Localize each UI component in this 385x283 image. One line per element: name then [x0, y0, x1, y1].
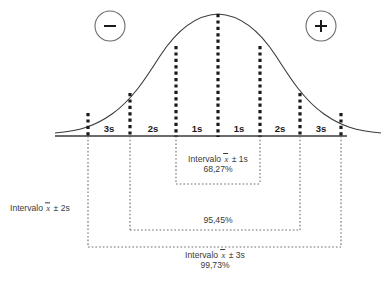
interval-3s-caption: Intervalo x ± 3s 99,73% [185, 251, 245, 271]
interval-2s-xbar: x [45, 203, 51, 213]
sign-markers [95, 11, 336, 41]
bracket-drop-lines [88, 136, 341, 247]
band-label-minus3s: 3s [104, 124, 115, 134]
interval-1s-caption: Intervalo x ± 1s 68,27% [188, 155, 248, 175]
diagram-canvas [0, 0, 385, 283]
band-label-plus1s: 1s [234, 124, 245, 134]
plus-icon [315, 20, 327, 32]
interval-2s-suffix: ± 2s [51, 203, 70, 213]
interval-1s-percent: 68,27% [188, 165, 248, 174]
band-label-plus2s: 2s [275, 124, 286, 134]
interval-3s-suffix: ± 3s [226, 250, 245, 260]
interval-2s-percent: 95,45% [203, 216, 232, 225]
interval-1s-prefix: Intervalo [188, 154, 223, 164]
band-label-plus3s: 3s [316, 124, 327, 134]
interval-1s-xbar: x [223, 154, 229, 164]
interval-3s-xbar: x [220, 250, 226, 260]
interval-3s-percent: 99,73% [185, 261, 245, 270]
normal-distribution-figure: 3s 2s 1s 1s 2s 3s Intervalo x ± 1s 68,27… [0, 0, 385, 283]
band-label-minus2s: 2s [148, 124, 159, 134]
interval-1s-suffix: ± 1s [229, 154, 248, 164]
interval-2s-prefix: Intervalo [10, 203, 45, 213]
interval-3s-prefix: Intervalo [185, 250, 220, 260]
interval-2s-caption: Intervalo x ± 2s [10, 204, 70, 213]
sigma-gridlines-above [88, 14, 341, 137]
band-label-minus1s: 1s [192, 124, 203, 134]
